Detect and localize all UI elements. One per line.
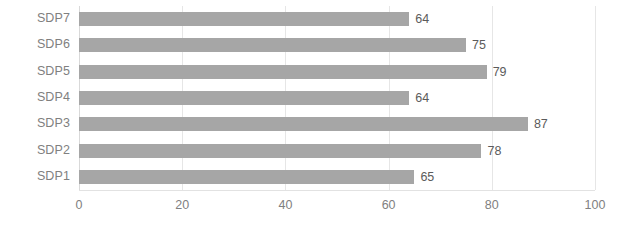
x-tick-label: 80 [485, 198, 499, 212]
category-label-sdp2: SDP2 [0, 143, 70, 157]
bar-value-label: 65 [420, 170, 434, 184]
bar-value-label: 64 [415, 12, 429, 26]
bar-value-label: 78 [487, 144, 501, 158]
x-axis-tick-labels: 020406080100 [0, 198, 640, 218]
bar-value-label: 64 [415, 91, 429, 105]
bar-value-label: 75 [472, 38, 486, 52]
bar [79, 38, 466, 52]
bar [79, 65, 487, 79]
category-label-sdp5: SDP5 [0, 64, 70, 78]
bar [79, 12, 409, 26]
x-tick-label: 0 [76, 198, 83, 212]
x-tick-label: 20 [175, 198, 189, 212]
x-axis-line [79, 190, 595, 191]
bar [79, 117, 528, 131]
plot-area: 64757964877865 [79, 6, 595, 190]
category-label-sdp6: SDP6 [0, 37, 70, 51]
bar-value-label: 79 [493, 65, 507, 79]
category-label-sdp3: SDP3 [0, 116, 70, 130]
x-tick-label: 60 [382, 198, 396, 212]
x-tick-label: 40 [278, 198, 292, 212]
bar [79, 91, 409, 105]
gridline [492, 6, 493, 190]
bar-chart: 64757964877865 SDP7SDP6SDP5SDP4SDP3SDP2S… [0, 0, 640, 237]
bar [79, 170, 414, 184]
x-tick-label: 100 [585, 198, 606, 212]
category-label-sdp7: SDP7 [0, 11, 70, 25]
gridline [595, 6, 596, 190]
category-label-sdp4: SDP4 [0, 90, 70, 104]
bar [79, 144, 481, 158]
category-label-sdp1: SDP1 [0, 169, 70, 183]
bar-value-label: 87 [534, 117, 548, 131]
